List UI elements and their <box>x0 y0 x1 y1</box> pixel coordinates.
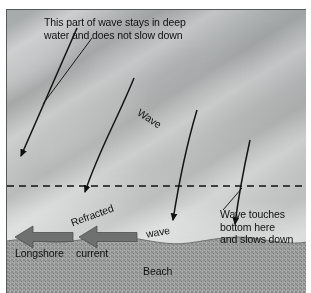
deep-water-note: This part of wave stays in deepwater and… <box>44 16 186 41</box>
longshore-current-arrow-2 <box>79 226 137 248</box>
deep-water-note-line1: This part of wave stays in deep <box>44 16 186 28</box>
deep-water-note-line2: water and does not slow down <box>44 29 182 41</box>
wave-refraction-figure: This part of wave stays in deepwater and… <box>0 0 311 293</box>
touches-bottom-line2: bottom here <box>220 221 275 233</box>
wave-direction-arrow-1 <box>21 28 77 156</box>
wave-direction-arrow-3 <box>173 110 197 220</box>
longshore-label: Longshore <box>15 247 64 260</box>
wave-direction-arrow-2 <box>85 78 134 192</box>
touches-bottom-line3: and slows down <box>220 233 293 245</box>
longshore-current-arrow-1 <box>15 226 73 248</box>
wave-touches-bottom-note: Wave touchesbottom hereand slows down <box>220 208 293 246</box>
current-label: current <box>76 247 108 260</box>
figure-frame: This part of wave stays in deepwater and… <box>6 9 306 293</box>
beach-label: Beach <box>143 265 172 278</box>
touches-bottom-line1: Wave touches <box>220 208 285 220</box>
